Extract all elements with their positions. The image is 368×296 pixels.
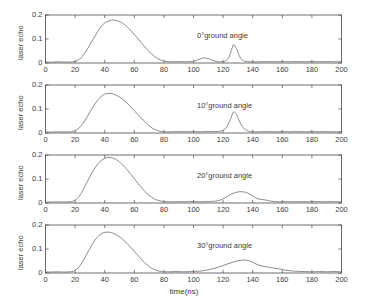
y-axis-title: laser echo [16,235,25,270]
x-tick-label: 180 [298,135,326,144]
x-tick-label: 100 [180,275,208,284]
data-curve-2-0 [46,157,342,202]
x-tick-label: 20 [61,275,89,284]
x-tick-label: 160 [268,65,296,74]
x-tick-label: 180 [298,65,326,74]
x-tick-label: 0 [32,205,60,214]
x-tick-label: 200 [328,205,356,214]
x-tick-label: 20 [61,65,89,74]
x-tick-label: 180 [298,205,326,214]
x-tick-label: 60 [120,205,148,214]
axes-box [46,225,342,273]
y-axis-title: laser echo [16,25,25,60]
x-tick-label: 0 [32,65,60,74]
x-tick-label: 120 [209,205,237,214]
y-axis-title: laser echo [16,165,25,200]
x-tick-label: 200 [328,65,356,74]
x-tick-label: 80 [150,205,178,214]
x-tick-label: 140 [239,205,267,214]
x-tick-label: 40 [91,65,119,74]
x-tick-label: 80 [150,275,178,284]
x-tick-label: 100 [180,135,208,144]
x-tick-label: 140 [239,135,267,144]
y-tick-label: 0.1 [32,174,42,183]
x-tick-label: 160 [268,135,296,144]
x-tick-label: 60 [120,275,148,284]
axes-box [46,155,342,203]
y-tick-label: 0.1 [32,244,42,253]
x-tick-label: 40 [91,205,119,214]
x-tick-label: 60 [120,135,148,144]
y-tick-label: 0.1 [32,34,42,43]
y-tick-label: 0.2 [32,80,42,89]
x-tick-label: 160 [268,205,296,214]
x-tick-label: 40 [91,275,119,284]
x-tick-label: 0 [32,135,60,144]
data-curve-0-0 [46,20,342,62]
y-tick-label: 0.2 [32,220,42,229]
panel-annotation-0: 0°ground angle [197,31,248,40]
x-tick-label: 120 [209,275,237,284]
x-tick-label: 20 [61,205,89,214]
x-tick-label: 120 [209,65,237,74]
x-tick-label: 140 [239,275,267,284]
x-tick-label: 200 [328,135,356,144]
x-tick-label: 160 [268,275,296,284]
x-tick-label: 20 [61,135,89,144]
panel-annotation-2: 20°ground angle [197,171,252,180]
y-axis-title: laser echo [16,95,25,130]
x-tick-label: 40 [91,135,119,144]
y-tick-label: 0.2 [32,150,42,159]
panel-annotation-1: 10°ground angle [197,101,252,110]
x-tick-label: 80 [150,135,178,144]
x-tick-label: 140 [239,65,267,74]
x-tick-label: 180 [298,275,326,284]
x-tick-label: 100 [180,65,208,74]
x-tick-label: 0 [32,275,60,284]
x-axis-title: time(ns) [0,287,368,296]
y-tick-label: 0.2 [32,10,42,19]
x-tick-label: 80 [150,65,178,74]
x-tick-label: 100 [180,205,208,214]
x-tick-label: 200 [328,275,356,284]
y-tick-label: 0.1 [32,104,42,113]
axes-box [46,85,342,133]
axes-box [46,15,342,63]
panel-annotation-3: 30°ground angle [197,241,252,250]
x-tick-label: 60 [120,65,148,74]
x-tick-label: 120 [209,135,237,144]
data-curve-1-0 [46,93,342,132]
data-curve-3-0 [46,232,342,272]
